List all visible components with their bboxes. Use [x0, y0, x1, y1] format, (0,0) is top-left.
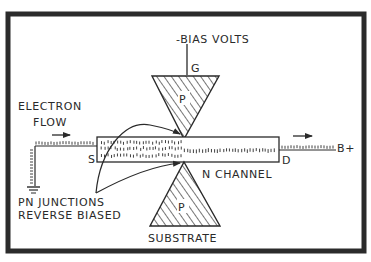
ground-icon	[27, 187, 40, 193]
gate-p-label: P	[179, 93, 186, 106]
substrate-p-label: P	[178, 201, 185, 214]
source-wire	[35, 146, 97, 186]
gate-label: G	[191, 62, 200, 75]
bias-volts-label: -BIAS VOLTS	[176, 33, 249, 46]
substrate-label: SUBSTRATE	[148, 232, 217, 245]
electron-flow-label-line1: ELECTRON	[18, 100, 82, 113]
b-plus-label: B+	[337, 142, 355, 155]
junction-arrow-lower	[96, 163, 180, 193]
drain-label: D	[282, 154, 291, 167]
drain-wire-electrons	[282, 145, 333, 149]
source-label: S	[88, 153, 96, 166]
electron-flow-label-line2: FLOW	[33, 116, 67, 129]
pn-junctions-label-line1: PN JUNCTIONS	[18, 196, 105, 209]
n-channel-label: N CHANNEL	[202, 168, 272, 181]
pn-junctions-label-line2: REVERSE BIASED	[18, 209, 121, 222]
gate-p-region	[152, 76, 219, 139]
jfet-diagram: -BIAS VOLTS G P P SUBSTRATE S D B+ ELECT…	[0, 0, 371, 262]
source-wire-electrons	[30, 141, 93, 183]
